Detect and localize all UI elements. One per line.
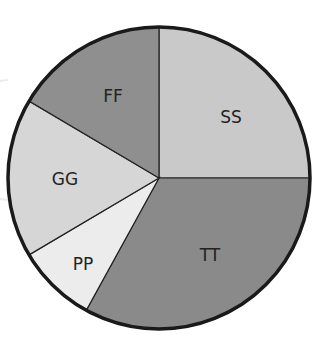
pie-slice-ss [159,27,310,178]
slice-label-ss: SS [220,107,242,127]
slice-label-gg: GG [52,169,78,189]
slice-label-pp: PP [73,254,94,274]
slice-label-tt: TT [199,245,221,265]
slice-label-ff: FF [103,86,123,106]
pie-chart: SS TT PP GG FF [0,0,312,341]
